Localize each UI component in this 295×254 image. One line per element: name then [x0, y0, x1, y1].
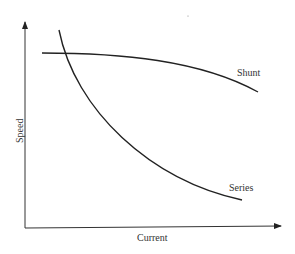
shunt-label: Shunt — [237, 67, 260, 78]
y-axis-label: Speed — [14, 119, 25, 143]
x-axis — [25, 226, 281, 228]
speed-current-diagram: Shunt Series Current Speed — [0, 0, 295, 254]
x-axis-label: Current — [137, 232, 168, 243]
shunt-curve — [42, 53, 258, 92]
series-label: Series — [229, 182, 253, 193]
series-curve — [59, 30, 242, 200]
plot-area — [0, 0, 295, 254]
